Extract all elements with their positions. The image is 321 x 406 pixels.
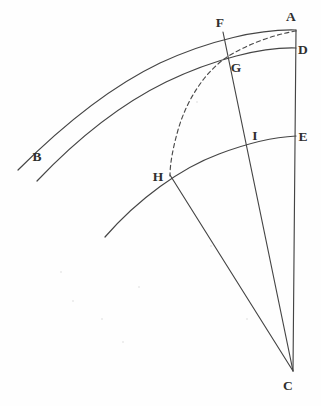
paper-speck (210, 245, 212, 247)
paper-speck (196, 101, 198, 103)
point-label-e: E (298, 129, 307, 144)
point-label-g: G (231, 60, 242, 75)
outer-arc (18, 30, 296, 170)
radius-line-f-c (223, 32, 293, 371)
point-label-a: A (286, 9, 296, 24)
radius-line-a-c (293, 30, 296, 371)
point-label-f: F (216, 15, 224, 30)
paper-speck (246, 318, 248, 320)
paper-speck (138, 286, 140, 288)
figure-canvas: A B C D E F G H I (0, 0, 321, 406)
paper-speck (122, 341, 124, 343)
middle-arc (37, 48, 296, 181)
point-label-i: I (252, 128, 257, 143)
point-label-c: C (283, 378, 293, 393)
point-label-h: H (153, 169, 164, 184)
point-label-d: D (298, 42, 308, 57)
dashed-arc (170, 31, 296, 176)
paper-speck (72, 300, 74, 302)
geometry-figure: A B C D E F G H I (0, 0, 321, 406)
paper-speck (101, 318, 103, 320)
lower-arc (105, 136, 296, 237)
paper-speck (60, 271, 62, 273)
radius-line-h-c (170, 175, 293, 371)
point-label-b: B (32, 149, 41, 164)
